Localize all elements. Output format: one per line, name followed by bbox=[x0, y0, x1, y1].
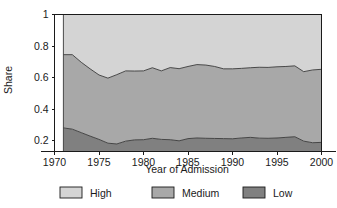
y-tick-label-0.8: 0.8 bbox=[34, 40, 49, 52]
plot-area-bands bbox=[63, 15, 321, 152]
legend-swatch-high bbox=[60, 187, 82, 198]
chart-legend: HighMediumLow bbox=[60, 187, 293, 199]
chart-figure: 0.20.40.60.81 19701975198019851990199520… bbox=[0, 0, 337, 208]
x-tick-label-2000: 2000 bbox=[310, 156, 334, 168]
x-axis-title: Year of Admission bbox=[145, 163, 229, 175]
legend-label-high: High bbox=[90, 187, 112, 199]
y-tick-label-1: 1 bbox=[43, 8, 49, 20]
legend-label-low: Low bbox=[273, 187, 293, 199]
x-tick-label-1970: 1970 bbox=[43, 156, 67, 168]
legend-swatch-low bbox=[243, 187, 265, 198]
legend-swatch-medium bbox=[152, 187, 174, 198]
x-tick-label-1995: 1995 bbox=[265, 156, 289, 168]
y-tick-label-0.4: 0.4 bbox=[34, 103, 49, 115]
x-tick-label-1975: 1975 bbox=[87, 156, 111, 168]
legend-label-medium: Medium bbox=[182, 187, 220, 199]
y-axis-tick-labels: 0.20.40.60.81 bbox=[34, 8, 49, 146]
y-tick-label-0.2: 0.2 bbox=[34, 134, 49, 146]
y-axis-title: Share bbox=[2, 66, 14, 94]
y-tick-label-0.6: 0.6 bbox=[34, 71, 49, 83]
stacked-area-chart: 0.20.40.60.81 19701975198019851990199520… bbox=[0, 0, 337, 208]
